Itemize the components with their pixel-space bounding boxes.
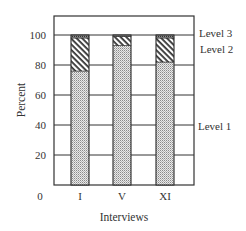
bar-XI-level-2 xyxy=(156,38,174,62)
bar-XI-level-1 xyxy=(156,62,174,185)
y-tick-20: 20 xyxy=(35,149,47,161)
bar-V xyxy=(113,35,131,185)
bar-I xyxy=(71,35,89,185)
bar-I-level-2 xyxy=(71,38,89,71)
x-tick-labels: IVXI xyxy=(78,190,171,202)
x-axis-title: Interviews xyxy=(100,211,149,223)
x-tick-V: V xyxy=(118,190,126,202)
legend-level-1: Level 1 xyxy=(198,120,231,132)
x-tick-I: I xyxy=(78,190,82,202)
bar-I-level-1 xyxy=(71,71,89,185)
y-tick-zero: 0 xyxy=(37,190,43,202)
bar-V-level-1 xyxy=(113,46,131,186)
y-tick-60: 60 xyxy=(35,89,47,101)
y-tick-labels: 20406080100 xyxy=(30,29,47,161)
y-tick-80: 80 xyxy=(35,59,47,71)
x-tick-XI: XI xyxy=(159,190,171,202)
legend-level-3: Level 3 xyxy=(199,27,233,39)
bar-I-level-3 xyxy=(71,35,89,38)
y-tick-100: 100 xyxy=(30,29,47,41)
bar-XI xyxy=(156,35,174,185)
stacked-bar-chart: 20406080100 0 IVXI Interviews Percent Le… xyxy=(0,0,246,231)
bars xyxy=(71,35,174,185)
y-tick-40: 40 xyxy=(35,119,47,131)
bar-V-level-2 xyxy=(113,37,131,46)
bar-XI-level-3 xyxy=(156,35,174,38)
legend-level-2: Level 2 xyxy=(200,43,233,55)
y-axis-title: Percent xyxy=(15,82,27,117)
